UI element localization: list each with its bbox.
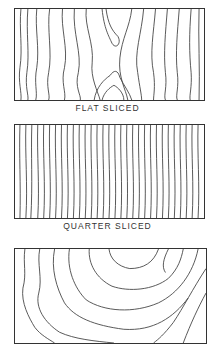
rotary-cut-panel	[14, 248, 207, 344]
quarter-sliced-caption: QUARTER SLICED	[0, 221, 215, 231]
quarter-sliced-panel	[14, 124, 205, 219]
flat-sliced-grain-illustration	[15, 9, 204, 100]
quarter-sliced-grain-illustration	[15, 125, 204, 218]
flat-sliced-panel	[14, 8, 205, 101]
flat-sliced-caption: FLAT SLICED	[0, 103, 215, 113]
rotary-cut-grain-illustration	[15, 249, 206, 343]
